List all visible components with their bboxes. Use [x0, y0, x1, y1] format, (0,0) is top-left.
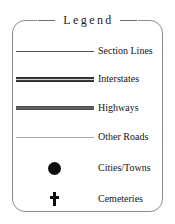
cities-towns-swatch: [16, 155, 94, 181]
legend-entry-interstates: Interstates: [16, 66, 159, 92]
legend-entry-label: Interstates: [94, 73, 159, 85]
section-lines-swatch: [16, 38, 94, 64]
legend-entry-label: Highways: [94, 102, 159, 114]
filled-circle-icon: [48, 162, 61, 175]
thick-solid-line-icon: [16, 106, 94, 110]
legend-entry-section-lines: Section Lines: [16, 38, 159, 64]
legend-entry-label: Cemeteries: [94, 193, 159, 205]
interstates-swatch: [16, 66, 94, 92]
cemeteries-swatch: [16, 186, 94, 212]
legend-entry-label: Section Lines: [94, 45, 159, 57]
legend-entry-cities-towns: Cities/Towns: [16, 155, 159, 181]
highways-swatch: [16, 95, 94, 121]
cross-horizontal-bar: [50, 196, 59, 199]
cross-vertical-bar: [53, 192, 56, 206]
cross-icon: [50, 192, 59, 206]
thin-dark-line-icon: [16, 51, 94, 52]
thin-light-line-icon: [16, 137, 94, 138]
map-legend: Legend Section Lines Interstates Highway…: [0, 0, 175, 224]
legend-entry-cemeteries: Cemeteries: [16, 186, 159, 212]
legend-entry-label: Other Roads: [94, 131, 159, 143]
legend-entry-other-roads: Other Roads: [16, 124, 159, 150]
legend-entry-label: Cities/Towns: [94, 162, 159, 174]
thick-cased-line-icon: [16, 77, 94, 82]
other-roads-swatch: [16, 124, 94, 150]
legend-entry-list: Section Lines Interstates Highways Other…: [0, 0, 175, 224]
legend-entry-highways: Highways: [16, 95, 159, 121]
